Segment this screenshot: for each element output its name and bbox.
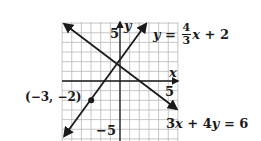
eq2-x: x	[175, 117, 183, 130]
eq1-lhs: y	[153, 28, 161, 41]
eq1-var: x	[192, 28, 200, 41]
eq1-equals: =	[161, 28, 181, 41]
eq1-fraction: 4 3	[182, 22, 192, 46]
equation-line1: y = 4 3 x + 2	[153, 22, 229, 46]
eq2-y: y	[212, 117, 220, 130]
eq2-c: = 6	[219, 117, 248, 130]
eq1-rest: + 2	[200, 28, 229, 41]
point-label: (−3, −2)	[25, 91, 82, 103]
eq2-b: + 4	[183, 117, 212, 130]
y-tick-5: 5	[110, 27, 119, 40]
x-tick-5: 5	[165, 85, 174, 98]
graph-figure: y x 5 −5 5 (−3, −2) y = 4 3 x + 2 3 x + …	[0, 0, 261, 141]
eq1-numerator: 4	[182, 22, 192, 35]
eq1-denominator: 3	[183, 35, 191, 47]
equation-line2: 3 x + 4 y = 6	[166, 117, 248, 130]
eq2-a: 3	[166, 117, 175, 130]
y-tick-neg5: −5	[96, 124, 116, 137]
y-axis-label: y	[124, 19, 132, 32]
point-neg3-neg2	[88, 97, 94, 103]
x-axis-label: x	[169, 66, 177, 79]
